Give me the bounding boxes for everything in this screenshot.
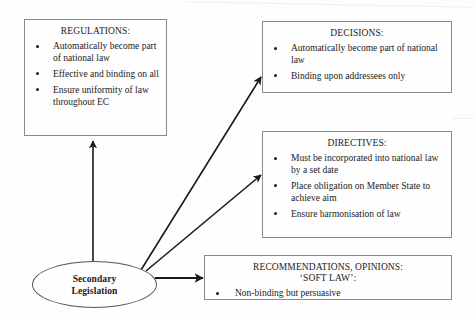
box-directives: DIRECTIVES: Must be incorporated into na… [262, 131, 452, 238]
bullet-dot-icon [274, 212, 277, 215]
list-item-text: Must be incorporated into national law b… [291, 153, 438, 175]
bullet-dot-icon [274, 184, 277, 187]
node-label-line2: Legislation [72, 285, 118, 297]
list-item-text: Automatically become part of national la… [53, 41, 156, 63]
list-item-text: Binding upon addressees only [291, 71, 405, 81]
box-decisions-bullets: Automatically become part of national la… [269, 42, 445, 82]
scan-artifact-line-top [186, 1, 474, 8]
list-item: Ensure harmonisation of law [269, 208, 445, 220]
box-directives-bullets: Must be incorporated into national law b… [269, 152, 445, 220]
box-directives-title: DIRECTIVES: [269, 137, 445, 149]
bullet-dot-icon [274, 47, 277, 50]
bullet-dot-icon [274, 74, 277, 77]
list-item-text: Place obligation on Member State to achi… [291, 181, 430, 203]
node-secondary-legislation-label: Secondary Legislation [72, 273, 118, 297]
box-regulations-bullets: Automatically become part of national la… [31, 40, 160, 108]
list-item: Ensure uniformity of law throughout EC [31, 84, 160, 108]
list-item-text: Automatically become part of national la… [291, 43, 438, 65]
bullet-dot-icon [216, 292, 219, 295]
box-regulations-title: REGULATIONS: [31, 25, 160, 37]
box-regulations: REGULATIONS: Automatically become part o… [24, 19, 167, 136]
list-item-text: Effective and binding on all [53, 69, 159, 79]
list-item-text: Ensure harmonisation of law [291, 209, 401, 219]
box-recommendations-title-line2: ‘SOFT LAW’: [211, 272, 445, 284]
list-item: Place obligation on Member State to achi… [269, 180, 445, 204]
bullet-dot-icon [36, 88, 39, 91]
list-item: Effective and binding on all [31, 68, 160, 80]
list-item-text: Ensure uniformity of law throughout EC [53, 85, 149, 107]
box-recommendations-bullets: Non-binding but persuasive [211, 287, 445, 299]
diagram-canvas: REGULATIONS: Automatically become part o… [0, 0, 474, 321]
box-decisions-title: DECISIONS: [269, 27, 445, 39]
node-secondary-legislation: Secondary Legislation [32, 261, 157, 308]
list-item: Must be incorporated into national law b… [269, 152, 445, 176]
bullet-dot-icon [274, 157, 277, 160]
list-item: Non-binding but persuasive [211, 287, 445, 299]
list-item-text: Non-binding but persuasive [235, 288, 341, 298]
box-recommendations: RECOMMENDATIONS, OPINIONS: ‘SOFT LAW’: N… [204, 255, 452, 300]
list-item: Binding upon addressees only [269, 70, 445, 82]
list-item: Automatically become part of national la… [31, 40, 160, 64]
box-decisions: DECISIONS: Automatically become part of … [262, 21, 452, 93]
bullet-dot-icon [36, 45, 39, 48]
scan-artifact-line-right [452, 118, 474, 119]
bullet-dot-icon [36, 72, 39, 75]
list-item: Automatically become part of national la… [269, 42, 445, 66]
node-label-line1: Secondary [72, 273, 118, 285]
